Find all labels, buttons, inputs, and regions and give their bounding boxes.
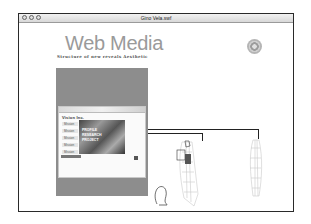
arm-model-wireframe-icon[interactable]: [245, 138, 267, 200]
app-window: Gino Vela.swf Web Media Structure of new…: [18, 13, 294, 212]
circle-target-logo-icon[interactable]: [247, 39, 262, 54]
website-screenshot[interactable]: Vision Inc. Mission Mission Mission Miss…: [58, 106, 146, 178]
window-title: Gino Vela.swf: [19, 14, 293, 22]
connector-line: [148, 129, 259, 130]
tagline: Structure of new reveals Aesthetic: [57, 54, 148, 59]
preview-panel: Vision Inc. Mission Mission Mission Miss…: [56, 68, 148, 196]
square-icon: [134, 156, 138, 160]
nav-item: Mission: [62, 150, 78, 154]
footer-bar: [61, 155, 81, 158]
site-nav: Mission Mission Mission Mission Mission: [62, 122, 78, 154]
connector-line: [148, 133, 203, 134]
arm-model-selected-icon[interactable]: [174, 138, 204, 210]
browser-toolbar: [59, 107, 145, 113]
nav-item: Mission: [62, 143, 78, 147]
nav-item: Mission: [62, 129, 78, 133]
hero-image: PROFILE RESEARCH PROJECT: [79, 120, 125, 154]
nav-item: Mission: [62, 136, 78, 140]
nav-item: Mission: [62, 122, 78, 126]
head-outline-icon[interactable]: [153, 184, 169, 206]
brand-title: Web Media: [65, 33, 163, 53]
hero-text: PROFILE RESEARCH PROJECT: [82, 128, 102, 143]
title-bar[interactable]: Gino Vela.swf: [19, 14, 293, 23]
